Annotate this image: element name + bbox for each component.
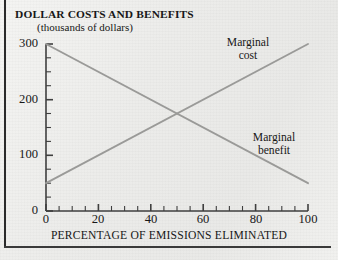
x-tick-label-40: 40 bbox=[137, 212, 165, 227]
y-tick-label-200: 200 bbox=[8, 92, 38, 107]
marginal-benefit-label: Marginal benefit bbox=[231, 131, 317, 157]
marginal-cost-label-line1: Marginal bbox=[208, 36, 288, 49]
y-tick-label-100: 100 bbox=[8, 147, 38, 162]
x-tick-label-60: 60 bbox=[189, 212, 217, 227]
x-tick-label-100: 100 bbox=[294, 212, 322, 227]
marginal-benefit-label-line1: Marginal bbox=[231, 131, 317, 144]
marginal-cost-label: Marginal cost bbox=[208, 36, 288, 62]
x-tick-label-0: 0 bbox=[32, 212, 60, 227]
figure-container: DOLLAR COSTS AND BENEFITS (thousands of … bbox=[0, 0, 338, 260]
x-tick-label-80: 80 bbox=[242, 212, 270, 227]
x-axis-title: PERCENTAGE OF EMISSIONS ELIMINATED bbox=[0, 229, 338, 242]
marginal-cost-label-line2: cost bbox=[208, 49, 288, 62]
y-tick-label-300: 300 bbox=[8, 36, 38, 51]
marginal-benefit-label-line2: benefit bbox=[231, 144, 317, 157]
x-tick-label-20: 20 bbox=[84, 212, 112, 227]
